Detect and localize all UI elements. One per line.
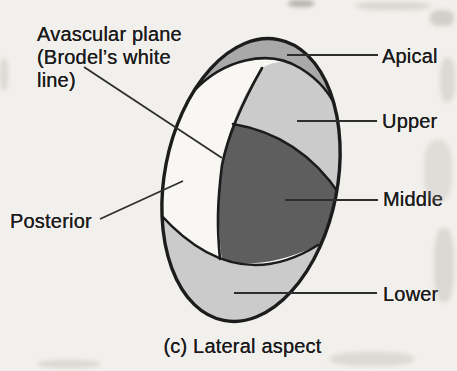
avascular-plane-label: Avascular plane (Brodel’s white line)	[37, 23, 212, 92]
posterior-label: Posterior	[10, 210, 92, 233]
upper-label: Upper	[382, 110, 437, 133]
figure-region: Avascular plane (Brodel’s white line) Po…	[0, 0, 457, 371]
middle-label: Middle	[383, 188, 443, 211]
apical-label: Apical	[382, 45, 438, 68]
figure-caption: (c) Lateral aspect	[150, 335, 335, 358]
lower-label: Lower	[383, 283, 438, 306]
